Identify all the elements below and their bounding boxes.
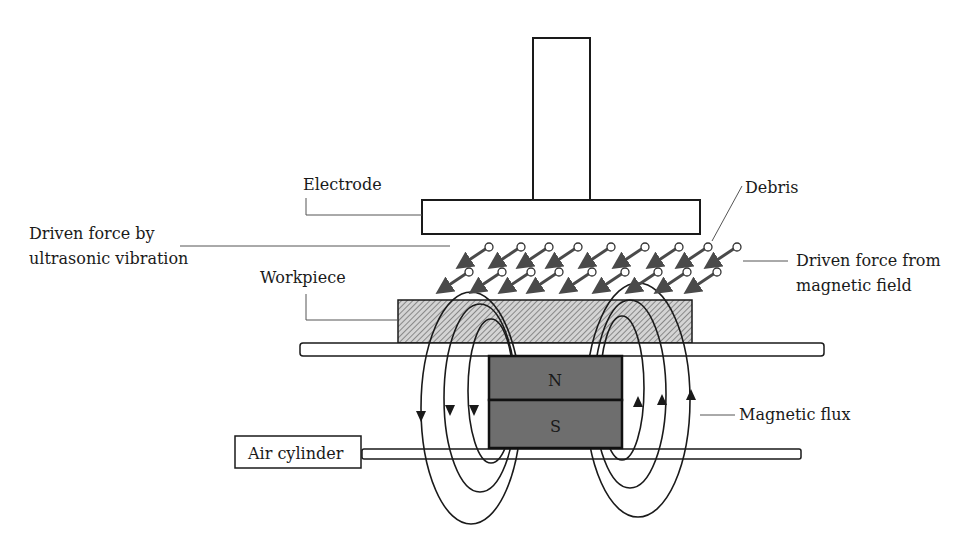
electrode-shaft [533,38,590,200]
magnetic-flux-label: Magnetic flux [739,405,851,424]
south-label: S [550,417,561,436]
electrode-leader [306,198,422,215]
arrow-down-icon [416,411,426,422]
magnetic-force-label-2: magnetic field [796,276,912,295]
electrode-plate [422,200,700,234]
air-cylinder-label: Air cylinder [247,444,344,463]
cylinder-rod [362,449,801,459]
electrode-label: Electrode [303,175,382,194]
air-cylinder: Air cylinder [235,436,361,468]
debris-leader [712,186,742,241]
workpiece [398,300,692,343]
workpiece-leader [306,294,398,320]
workpiece-label: Workpiece [260,268,346,287]
permanent-magnet: N S [489,356,622,448]
magnetic-force-label-1: Driven force from [796,251,941,270]
arrow-down-icon [469,405,479,416]
edm-diagram: N S Air cylinder [0,0,977,552]
debris-label: Debris [745,178,799,197]
ultrasonic-label-2: ultrasonic vibration [29,249,188,268]
ultrasonic-label-1: Driven force by [29,224,155,243]
north-label: N [548,371,562,390]
arrow-up-icon [686,389,696,400]
arrow-down-icon [445,405,455,416]
electrode [422,38,700,234]
arrow-up-icon [633,396,643,407]
debris-circles [465,243,741,276]
table-plate [300,343,824,356]
